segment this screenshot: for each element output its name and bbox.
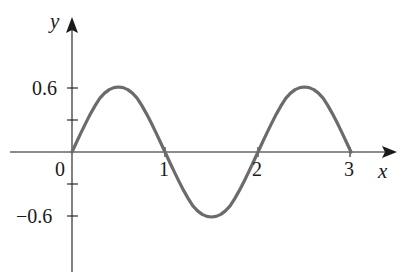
y-tick-label-pos: 0.6 [32,77,57,99]
x-tick-label-2: 2 [252,158,262,180]
x-tick-label-3: 3 [344,158,354,180]
y-tick-label-neg: −0.6 [16,205,52,227]
x-tick-label-1: 1 [159,158,169,180]
y-axis-label: y [48,9,60,33]
chart: y x 0.6 −0.6 0 1 2 3 [0,0,401,280]
x-axis-label: x [377,159,388,183]
origin-label: 0 [55,158,65,180]
